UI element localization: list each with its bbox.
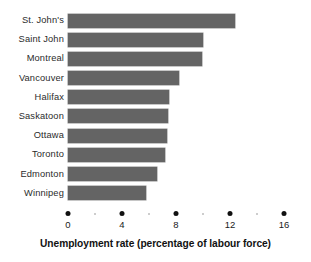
bar-row: Edmonton bbox=[0, 166, 311, 185]
bar bbox=[68, 109, 168, 123]
bar-track bbox=[68, 71, 307, 85]
x-axis-minor-tick-dot bbox=[94, 213, 96, 215]
bar-row: Montreal bbox=[0, 50, 311, 69]
bar-track bbox=[68, 90, 307, 104]
bar bbox=[68, 186, 146, 200]
x-axis-minor-tick-dot bbox=[256, 213, 258, 215]
bar-track bbox=[68, 52, 307, 66]
bar-category-label: Vancouver bbox=[0, 71, 64, 85]
x-axis-tick-label: 12 bbox=[225, 219, 236, 231]
x-axis-tick-label: 4 bbox=[119, 219, 124, 231]
bar-row: Saint John bbox=[0, 31, 311, 50]
bar-row: Halifax bbox=[0, 89, 311, 108]
bar-track bbox=[68, 148, 307, 162]
x-axis-tick-dot bbox=[66, 211, 71, 216]
bar-category-label: Saskatoon bbox=[0, 109, 64, 123]
x-axis: 0481216 bbox=[0, 208, 311, 236]
bar-category-label: Edmonton bbox=[0, 167, 64, 181]
bar-track bbox=[68, 186, 307, 200]
bar-category-label: Toronto bbox=[0, 147, 64, 161]
bar bbox=[68, 52, 202, 66]
bar bbox=[68, 129, 167, 143]
chart-plot-area: St. John'sSaint JohnMontrealVancouverHal… bbox=[0, 12, 311, 208]
bar bbox=[68, 71, 179, 85]
x-axis-tick-dot bbox=[120, 211, 125, 216]
x-axis-title: Unemployment rate (percentage of labour … bbox=[0, 238, 311, 249]
bar bbox=[68, 148, 165, 162]
bar-category-label: Winnipeg bbox=[0, 186, 64, 200]
bar-track bbox=[68, 109, 307, 123]
bar-track bbox=[68, 129, 307, 143]
bar-track bbox=[68, 167, 307, 181]
x-axis-tick-label: 0 bbox=[65, 219, 70, 231]
bar-category-label: Ottawa bbox=[0, 128, 64, 142]
bar-track bbox=[68, 33, 307, 47]
bar-category-label: Halifax bbox=[0, 90, 64, 104]
bar-row: Vancouver bbox=[0, 70, 311, 89]
bar-row: St. John's bbox=[0, 12, 311, 31]
bar bbox=[68, 90, 169, 104]
x-axis-tick-dot bbox=[228, 211, 233, 216]
x-axis-tick-dot bbox=[282, 211, 287, 216]
bar bbox=[68, 33, 203, 47]
bar bbox=[68, 167, 157, 181]
bar-row: Ottawa bbox=[0, 127, 311, 146]
bar-category-label: St. John's bbox=[0, 13, 64, 27]
bar-row: Toronto bbox=[0, 146, 311, 165]
bar-track bbox=[68, 14, 307, 28]
x-axis-tick-label: 8 bbox=[173, 219, 178, 231]
x-axis-minor-tick-dot bbox=[148, 213, 150, 215]
x-axis-minor-tick-dot bbox=[202, 213, 204, 215]
bar-row: Winnipeg bbox=[0, 185, 311, 204]
bar-category-label: Saint John bbox=[0, 32, 64, 46]
x-axis-tick-label: 16 bbox=[279, 219, 290, 231]
bar bbox=[68, 14, 235, 28]
bar-chart-figure: St. John'sSaint JohnMontrealVancouverHal… bbox=[0, 0, 311, 262]
bar-category-label: Montreal bbox=[0, 51, 64, 65]
x-axis-tick-dot bbox=[174, 211, 179, 216]
bar-row: Saskatoon bbox=[0, 108, 311, 127]
